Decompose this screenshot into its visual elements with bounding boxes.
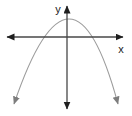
parabola-graph-figure: y x <box>0 0 132 116</box>
y-axis-label: y <box>55 3 61 15</box>
x-axis-label: x <box>118 43 124 55</box>
graph-canvas: y x <box>0 0 132 116</box>
parabola-curve <box>14 19 118 104</box>
